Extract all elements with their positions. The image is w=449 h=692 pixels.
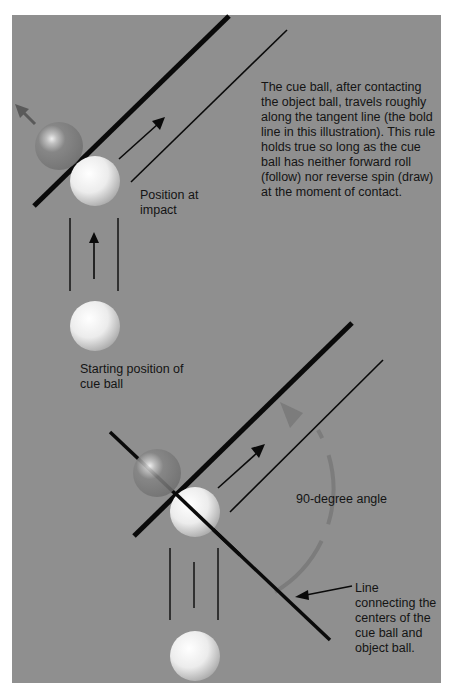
travel-arrow xyxy=(218,452,258,488)
tangent-line-bold xyxy=(34,16,229,206)
cue-ball-impact xyxy=(70,156,120,206)
caption-text: The cue ball, after contacting the objec… xyxy=(261,80,441,200)
object-ball-ghost xyxy=(133,449,181,497)
right-angle-arc xyxy=(275,430,333,592)
object-ball-ghost xyxy=(35,122,83,170)
travel-arrow xyxy=(119,124,158,159)
object-ball-direction-arrow xyxy=(23,112,35,124)
pointer-arrowhead xyxy=(295,590,309,600)
top-figure xyxy=(15,16,287,351)
cue-ball-start xyxy=(170,631,220,681)
parallel-thin-line xyxy=(230,360,383,512)
label-90-degree-angle: 90-degree angle xyxy=(296,492,396,507)
approach-arrowhead xyxy=(89,232,99,243)
label-position-at-impact: Position at impact xyxy=(140,188,220,218)
label-starting-position: Starting position of cue ball xyxy=(80,362,200,392)
right-angle-arc-head xyxy=(280,402,303,428)
cue-ball-start xyxy=(70,301,120,351)
label-connecting-line: Line connecting the centers of the cue b… xyxy=(355,581,441,656)
pointer-arrow xyxy=(306,586,352,595)
